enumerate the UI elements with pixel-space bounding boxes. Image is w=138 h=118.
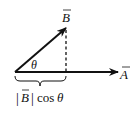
angle-theta-label: θ: [31, 58, 37, 72]
svg-text:B: B: [62, 10, 70, 25]
vector-a-label: A: [119, 67, 130, 82]
projection-label: | B | cos θ: [16, 90, 64, 106]
svg-text:A: A: [119, 67, 128, 82]
svg-text:|: |: [31, 91, 34, 106]
svg-text:cos: cos: [37, 90, 54, 105]
svg-text:B: B: [21, 90, 29, 105]
vector-projection-diagram: B A θ | B | cos θ: [0, 0, 138, 118]
vector-b-arrow: [15, 28, 66, 72]
vector-b-label: B: [62, 10, 71, 25]
svg-text:θ: θ: [57, 90, 64, 105]
svg-text:|: |: [16, 91, 19, 106]
projection-brace: [15, 76, 66, 86]
